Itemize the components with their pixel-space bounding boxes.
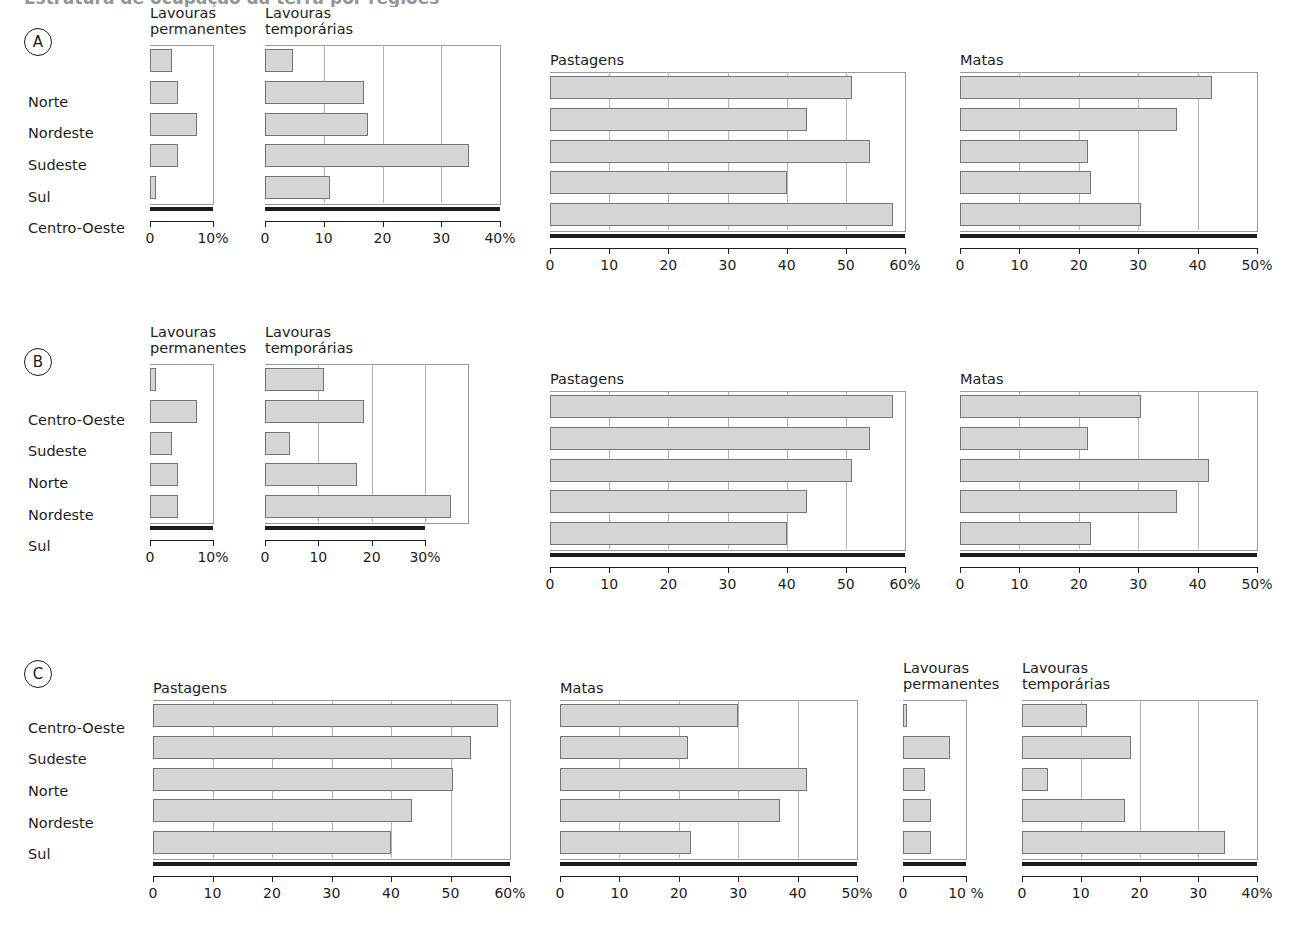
baseline-rule xyxy=(265,526,425,530)
bar xyxy=(150,400,197,423)
axis-tick-label: 50% xyxy=(1241,577,1272,591)
plot-area xyxy=(150,364,213,522)
bar xyxy=(960,427,1088,450)
chart-A-permanentes: Lavouras permanentes010% xyxy=(150,45,213,203)
axis-tick xyxy=(153,876,154,882)
chart-C-permanentes: Lavouras permanentes010 % xyxy=(903,700,966,858)
axis-tick xyxy=(150,540,151,546)
bar xyxy=(550,171,787,194)
group-badge-C: C xyxy=(24,660,52,688)
bar xyxy=(550,76,852,99)
row-label: Sul xyxy=(28,190,50,205)
baseline-rule xyxy=(150,526,213,530)
axis-tick-label: 10 xyxy=(315,231,333,245)
plot-area xyxy=(550,391,905,549)
axis-tick xyxy=(1022,876,1023,882)
chart-A-temporarias: Lavouras temporárias010203040% xyxy=(265,45,500,203)
axis-tick-label: 20 xyxy=(659,258,677,272)
axis-tick xyxy=(265,540,266,546)
baseline-rule xyxy=(1022,862,1257,866)
row-label: Norte xyxy=(28,784,68,799)
axis-tick-label: 40 xyxy=(778,258,796,272)
axis-tick-label: 10 xyxy=(1010,577,1028,591)
bar xyxy=(265,49,293,72)
axis-tick-label: 10% xyxy=(197,231,228,245)
row-label: Sul xyxy=(28,847,50,862)
axis-tick-label: 10 xyxy=(309,550,327,564)
bar xyxy=(560,704,738,727)
axis-tick-label: 50% xyxy=(1241,258,1272,272)
axis-line xyxy=(150,221,213,222)
chart-title: Lavouras temporárias xyxy=(1022,660,1110,692)
axis-tick-label: 20 xyxy=(374,231,392,245)
bar xyxy=(265,368,324,391)
axis-tick-label: 30 xyxy=(1129,258,1147,272)
axis-tick-label: 40 xyxy=(1189,577,1207,591)
chart-B-permanentes: Lavouras permanentes010% xyxy=(150,364,213,522)
bar xyxy=(150,368,156,391)
axis-tick xyxy=(960,567,961,573)
axis-line xyxy=(903,876,966,877)
bar xyxy=(550,522,787,545)
axis-tick-label: 60% xyxy=(494,886,525,900)
bar xyxy=(960,108,1177,131)
axis-tick-label: 0 xyxy=(956,577,965,591)
axis-tick xyxy=(391,876,392,882)
bar xyxy=(265,176,330,199)
axis-tick xyxy=(550,248,551,254)
chart-title: Matas xyxy=(960,371,1004,387)
axis-tick-label: 20 xyxy=(263,886,281,900)
bar xyxy=(153,736,471,759)
chart-title: Lavouras permanentes xyxy=(150,5,246,37)
axis-tick-label: 10 xyxy=(1072,886,1090,900)
bar xyxy=(265,81,364,104)
axis-tick-label: 50 xyxy=(442,886,460,900)
axis-tick-label: 20 xyxy=(670,886,688,900)
bar xyxy=(550,459,852,482)
chart-title: Pastagens xyxy=(550,52,624,68)
bar xyxy=(265,495,451,518)
axis-tick-label: 0 xyxy=(546,577,555,591)
axis-tick-label: 10% xyxy=(197,550,228,564)
baseline-rule xyxy=(960,553,1257,557)
axis-tick xyxy=(1198,567,1199,573)
row-label: Nordeste xyxy=(28,816,94,831)
chart-B-temporarias: Lavouras temporárias0102030% xyxy=(265,364,468,522)
bar xyxy=(1022,736,1131,759)
chart-title: Lavouras permanentes xyxy=(903,660,999,692)
axis-tick xyxy=(550,567,551,573)
chart-title: Lavouras temporárias xyxy=(265,5,353,37)
bar xyxy=(550,140,870,163)
axis-tick-label: 20 xyxy=(1070,258,1088,272)
axis-tick xyxy=(798,876,799,882)
row-label-group-A: NorteNordesteSudesteSulCentro-Oeste xyxy=(28,86,148,244)
bar xyxy=(150,495,178,518)
group-badge-A: A xyxy=(24,28,52,56)
row-label: Nordeste xyxy=(28,508,94,523)
bar xyxy=(903,799,931,822)
axis-tick xyxy=(903,876,904,882)
chart-title: Lavouras permanentes xyxy=(150,324,246,356)
bar xyxy=(1022,768,1048,791)
row-label: Sudeste xyxy=(28,158,87,173)
axis-tick xyxy=(272,876,273,882)
axis-tick-label: 0 xyxy=(261,231,270,245)
bar xyxy=(960,140,1088,163)
bar xyxy=(903,736,950,759)
plot-area xyxy=(265,45,500,203)
axis-tick-label: 40 xyxy=(382,886,400,900)
chart-C-pastagens: Pastagens0102030405060% xyxy=(153,700,510,858)
axis-tick xyxy=(1138,567,1139,573)
axis-tick xyxy=(846,248,847,254)
axis-tick-label: 0 xyxy=(546,258,555,272)
axis-tick xyxy=(619,876,620,882)
axis-tick xyxy=(609,567,610,573)
axis-tick-label: 30 xyxy=(323,886,341,900)
row-label: Centro-Oeste xyxy=(28,721,125,736)
bar xyxy=(265,144,469,167)
plot-area xyxy=(903,700,966,858)
axis-line xyxy=(150,540,213,541)
axis-tick xyxy=(150,221,151,227)
baseline-rule xyxy=(265,207,500,211)
axis-tick xyxy=(728,567,729,573)
